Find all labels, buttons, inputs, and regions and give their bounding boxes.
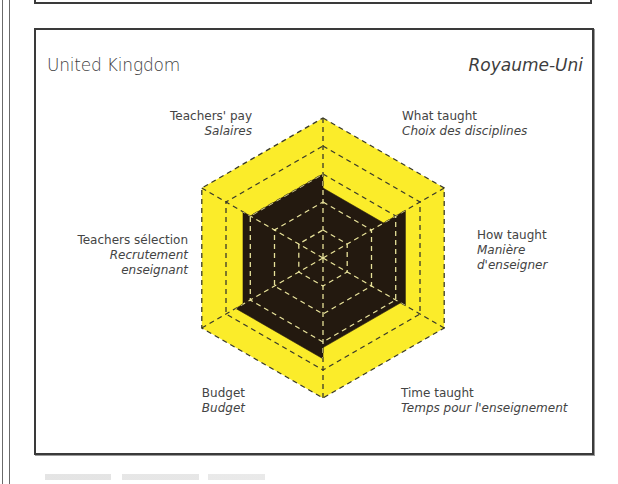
axis-label-time-taught: Time taughtTemps pour l'enseignement bbox=[401, 386, 568, 416]
faded-caption-text bbox=[45, 474, 265, 480]
axis-label-teachers-selection: Teachers sélectionRecrutementenseignant bbox=[77, 233, 188, 278]
axis-label-how-taught: How taughtManièred'enseigner bbox=[477, 228, 547, 273]
axis-label-what-taught: What taughtChoix des disciplines bbox=[402, 109, 527, 139]
axis-label-budget: BudgetBudget bbox=[202, 386, 245, 416]
axis-label-teachers-pay: Teachers' paySalaires bbox=[170, 109, 252, 139]
